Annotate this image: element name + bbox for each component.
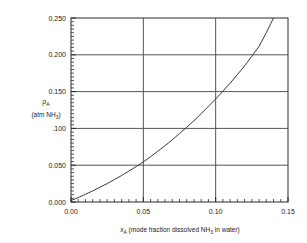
x-tick-label: 0.15 [281,208,295,215]
y-tick-label: 0.150 [48,88,66,95]
y-tick-label: 0.050 [48,162,66,169]
x-tick-label: 0.05 [137,208,151,215]
y-tick-label: 0.250 [48,15,66,22]
y-tick-label: .100 [52,125,66,132]
y-tick-label: 0.200 [48,51,66,58]
chart-svg: 0.000.050.100.15 0.0000.050.1000.1500.20… [0,0,307,243]
x-tick-label: 0.00 [64,208,78,215]
y-tick-label: 0.000 [48,199,66,206]
chart-figure: 0.000.050.100.15 0.0000.050.1000.1500.20… [0,0,307,243]
chart-background [0,0,307,243]
x-tick-label: 0.10 [209,208,223,215]
